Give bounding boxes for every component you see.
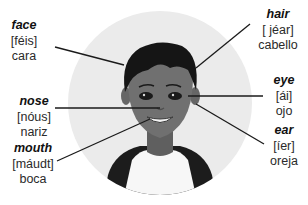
label-face: face [féis] cara: [6, 18, 42, 65]
label-face-spanish: cara: [6, 49, 42, 65]
label-nose-english: nose: [14, 94, 54, 110]
label-mouth-pronunciation: [máudt]: [10, 157, 56, 173]
label-eye-spanish: ojo: [266, 104, 302, 120]
label-ear-english: ear: [264, 123, 304, 139]
label-eye-pronunciation: [ái]: [266, 89, 302, 105]
label-nose: nose [nóus] nariz: [14, 94, 54, 141]
label-ear-pronunciation: [íer]: [264, 139, 304, 155]
label-hair-spanish: cabello: [252, 38, 304, 54]
label-face-english: face: [6, 18, 42, 34]
label-nose-spanish: nariz: [14, 125, 54, 141]
label-mouth-english: mouth: [10, 141, 56, 157]
label-face-pronunciation: [féis]: [6, 34, 42, 50]
label-hair-pronunciation: [ jéar]: [252, 23, 304, 39]
label-eye: eye [ái] ojo: [266, 73, 302, 120]
label-ear: ear [íer] oreja: [264, 123, 304, 170]
label-eye-english: eye: [266, 73, 302, 89]
label-hair: hair [ jéar] cabello: [252, 7, 304, 54]
label-mouth-spanish: boca: [10, 172, 56, 188]
label-mouth: mouth [máudt] boca: [10, 141, 56, 188]
label-ear-spanish: oreja: [264, 154, 304, 170]
label-nose-pronunciation: [nóus]: [14, 110, 54, 126]
face-parts-diagram: face [féis] cara hair [ jéar] cabello ey…: [0, 0, 308, 205]
label-hair-english: hair: [252, 7, 304, 23]
right-eye: [168, 92, 182, 100]
left-eye: [139, 92, 153, 100]
